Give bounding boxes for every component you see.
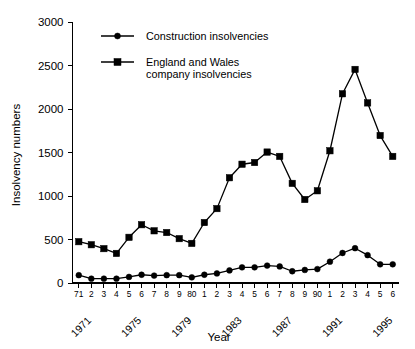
data-point-1977 [151,228,157,234]
y-tick-label-0: 0 [57,277,63,289]
data-point-1973 [101,276,107,282]
x-tick-label-1988: 8 [290,289,295,299]
data-point-1981 [201,272,207,278]
y-axis-title: Insolvency numbers [10,104,22,207]
data-point-1971 [76,272,82,278]
y-tick-label-2000: 2000 [38,103,64,115]
data-point-1974 [114,276,120,282]
x-tick-label-1983: 3 [227,289,232,299]
data-point-1996 [390,261,396,267]
x-tick-label-1986: 6 [265,289,270,299]
legend-label-construction: Construction insolvencies [146,30,269,42]
y-tick-label-2500: 2500 [38,60,64,72]
data-point-1986 [264,263,270,269]
data-point-1986 [264,149,270,155]
legend-label-england-wales-line2: company insolvencies [146,68,252,80]
data-point-1972 [88,276,94,282]
x-tick-label-1994: 4 [365,289,370,299]
x-tick-label-1971: 71 [74,289,84,299]
data-point-1975 [126,274,132,280]
x-tick-label-1977: 7 [152,289,157,299]
x-tick-label-1991: 1 [328,289,333,299]
data-point-1992 [340,250,346,256]
x-tick-label-1980: 80 [187,289,197,299]
data-point-1987 [277,153,283,159]
y-tick-label-3000: 3000 [38,16,64,28]
legend-marker-circle-icon [115,33,121,39]
series-construction [76,245,396,281]
x-tick-label-1990: 90 [313,289,323,299]
data-point-1992 [339,91,345,97]
chart-canvas: Insolvency numbers Year 0500100015002000… [0,0,415,349]
data-point-1990 [314,266,320,272]
data-series-layer [76,66,396,281]
x-axis-year-labels: 1971197519791983198719911995 [68,314,395,339]
data-point-1977 [151,273,157,279]
data-point-1995 [377,132,383,138]
y-tick-label-1000: 1000 [38,190,64,202]
data-point-1994 [364,100,370,106]
x-tick-label-1989: 9 [302,289,307,299]
data-point-1975 [126,234,132,240]
insolvency-line-chart-figure: Insolvency numbers Year 0500100015002000… [0,0,415,349]
y-tick-label-1500: 1500 [38,147,64,159]
y-axis-tick-labels: 050010001500200025003000 [38,16,64,289]
data-point-1978 [164,272,170,278]
x-year-label-1991: 1991 [319,314,344,339]
data-point-1979 [176,272,182,278]
data-point-1984 [239,264,245,270]
x-tick-label-1995: 5 [378,289,383,299]
data-point-1974 [113,250,119,256]
data-point-1988 [289,268,295,274]
x-year-label-1983: 1983 [219,314,244,339]
x-year-label-1975: 1975 [118,314,143,339]
x-tick-label-1972: 2 [89,289,94,299]
data-point-1995 [377,261,383,267]
data-point-1981 [201,219,207,225]
data-point-1989 [302,196,308,202]
x-tick-label-1987: 7 [277,289,282,299]
data-point-1984 [239,161,245,167]
data-point-1983 [227,267,233,273]
data-point-1980 [189,274,195,280]
data-point-1978 [163,229,169,235]
legend-marker-square-icon [114,59,121,66]
series-england-wales [76,66,396,256]
data-point-1989 [302,267,308,273]
data-point-1993 [352,66,358,72]
data-point-1990 [314,188,320,194]
x-year-label-1971: 1971 [68,314,93,339]
y-tick-label-500: 500 [44,234,63,246]
x-tick-label-1996: 6 [390,289,395,299]
x-year-label-1979: 1979 [169,314,194,339]
data-point-1996 [390,153,396,159]
x-axis-tick-labels: 71234567898012345678990123456 [74,289,395,299]
data-point-1985 [252,264,258,270]
x-tick-label-1973: 3 [102,289,107,299]
data-point-1985 [251,159,257,165]
x-tick-label-1985: 5 [252,289,257,299]
x-axis-ticks [79,283,393,288]
x-tick-label-1982: 2 [215,289,220,299]
x-tick-label-1984: 4 [240,289,245,299]
data-point-1976 [138,222,144,228]
legend-label-england-wales-line1: England and Wales [146,56,240,68]
data-point-1973 [101,245,107,251]
x-tick-label-1975: 5 [127,289,132,299]
x-tick-label-1981: 1 [202,289,207,299]
data-point-1982 [214,205,220,211]
x-year-label-1995: 1995 [370,314,395,339]
y-axis-ticks [68,22,73,283]
data-point-1971 [76,238,82,244]
x-tick-label-1992: 2 [340,289,345,299]
x-year-label-1987: 1987 [269,314,294,339]
data-point-1976 [139,272,145,278]
x-tick-label-1979: 9 [177,289,182,299]
x-tick-label-1993: 3 [353,289,358,299]
x-tick-label-1978: 8 [164,289,169,299]
x-tick-label-1974: 4 [114,289,119,299]
x-tick-label-1976: 6 [139,289,144,299]
data-point-1991 [327,148,333,154]
data-point-1988 [289,180,295,186]
data-point-1979 [176,235,182,241]
